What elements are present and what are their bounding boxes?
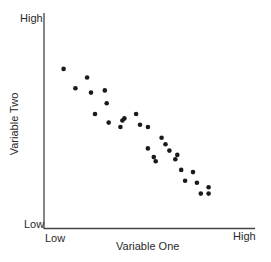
data-point [152,155,157,160]
data-point [89,90,94,95]
data-point [199,191,204,196]
data-point [175,153,180,158]
data-point [61,67,66,72]
x-axis-low-label: Low [45,232,65,244]
y-axis-high-label: High [20,12,43,24]
data-point [167,148,172,153]
data-point [122,116,127,121]
y-axis-title: Variable Two [8,86,20,162]
data-point [163,142,168,147]
x-axis-high-label: High [233,230,256,242]
data-point [103,88,108,93]
data-point [104,101,109,106]
data-point [173,157,178,162]
y-axis-low-label: Low [24,218,44,230]
data-point [146,125,151,130]
data-point [134,112,139,117]
data-point [73,86,78,91]
data-point [191,170,196,175]
data-point [93,112,98,117]
data-point [183,178,188,183]
x-axis-title: Variable One [116,240,179,252]
data-point [195,181,200,186]
data-point [206,191,211,196]
scatter-chart: High Low Low High Variable One Variable … [0,0,271,262]
data-points [61,67,211,196]
data-point [146,146,151,151]
data-point [138,123,143,128]
data-point [153,159,158,164]
data-point [159,135,164,140]
data-point [85,75,90,80]
data-point [179,168,184,173]
data-point [118,125,123,130]
data-point [106,120,111,125]
data-point [206,185,211,190]
